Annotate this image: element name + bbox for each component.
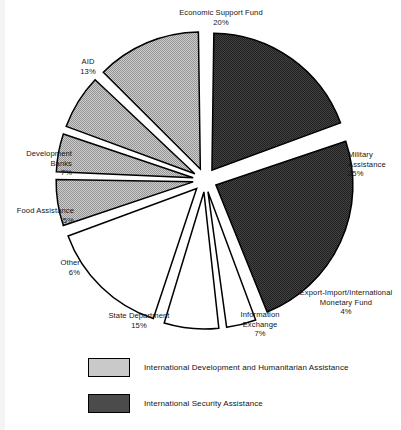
slice-label-development-banks: Development Banks 7% xyxy=(4,149,72,178)
slice-label-aid: AID 13% xyxy=(66,57,110,76)
slice-label-pct: 13% xyxy=(66,67,110,77)
slice-label-pct: 25% xyxy=(348,169,400,179)
slice-label-pct: 20% xyxy=(151,18,291,28)
slice-label-pct: 5% xyxy=(0,216,74,226)
slice-label-text-2: Monetary Fund xyxy=(291,298,401,308)
pie-chart: Economic Support Fund 20% Military Assis… xyxy=(0,0,401,430)
legend-item-security[interactable]: International Security Assistance xyxy=(88,394,263,413)
slice-label-text: Other xyxy=(61,258,81,267)
pie-slices xyxy=(56,32,353,329)
slice-label-state-department: State Department 15% xyxy=(84,311,194,330)
slice-label-pct: 7% xyxy=(227,329,293,339)
slice-label-text: Military xyxy=(348,150,373,159)
slice-label-text: Food Assistance xyxy=(17,206,74,215)
scan-artifact-left xyxy=(0,0,5,430)
slice-label-pct: 4% xyxy=(291,307,401,317)
slice-label-information-exchange: Information Exchange 7% xyxy=(227,310,293,339)
legend-swatch-development xyxy=(88,358,130,377)
slice-label-text: Information xyxy=(240,310,279,319)
legend-label-development: International Development and Humanitari… xyxy=(144,363,349,373)
slice-label-text: AID xyxy=(82,57,95,66)
legend-item-development[interactable]: International Development and Humanitari… xyxy=(88,358,349,377)
slice-label-other: Other 6% xyxy=(18,258,80,277)
slice-label-text: Economic Support Fund xyxy=(179,8,263,17)
slice-label-pct: 15% xyxy=(84,321,194,331)
slice-label-text: State Department xyxy=(108,311,169,320)
slice-label-text-2: Banks xyxy=(4,159,72,169)
legend-swatch-security xyxy=(88,394,130,413)
legend-label-security: International Security Assistance xyxy=(144,399,263,409)
slice-label-pct: 6% xyxy=(18,268,80,278)
slice-label-text: Export-Import/International xyxy=(300,288,393,297)
slice-label-text-2: Exchange xyxy=(227,320,293,330)
slice-label-export-import-imf: Export-Import/International Monetary Fun… xyxy=(291,288,401,317)
slice-label-economic-support-fund: Economic Support Fund 20% xyxy=(151,8,291,27)
slice-label-military-assistance: Military Assistance 25% xyxy=(348,150,400,179)
slice-label-text-2: Assistance xyxy=(348,160,400,170)
slice-label-pct: 7% xyxy=(4,168,72,178)
slice-label-food-assistance: Food Assistance 5% xyxy=(0,206,74,225)
slice-label-text: Development xyxy=(26,149,72,158)
